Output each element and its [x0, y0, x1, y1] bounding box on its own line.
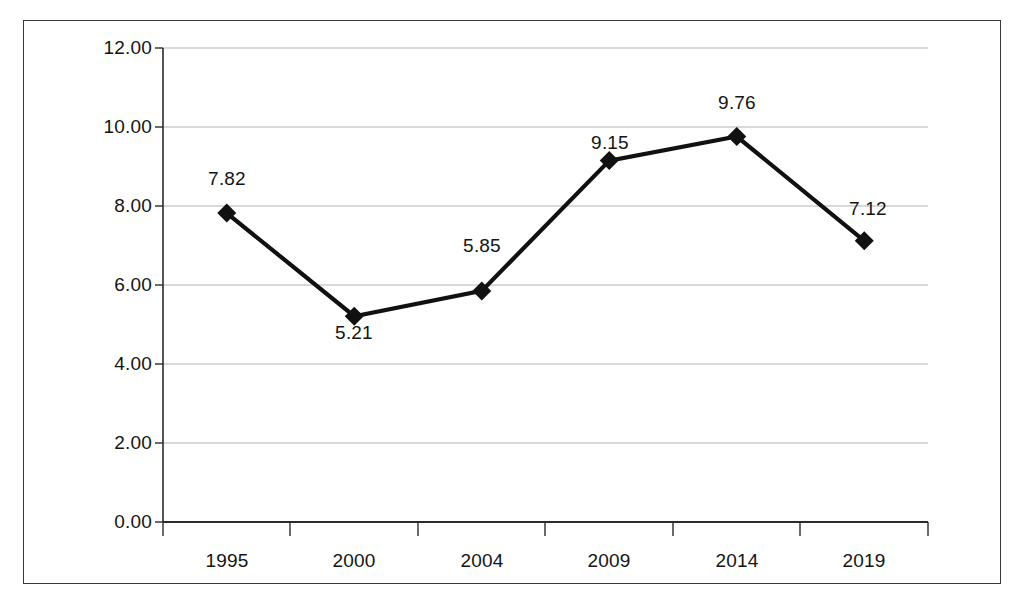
line-chart-plot — [0, 0, 1016, 606]
data-label-2004: 5.85 — [442, 235, 522, 257]
y-tick-label-0: 0.00 — [62, 511, 152, 533]
x-tick-label-2014: 2014 — [677, 550, 797, 572]
x-tick-label-2004: 2004 — [422, 550, 542, 572]
data-line-series-1 — [227, 137, 865, 317]
data-label-2019: 7.12 — [828, 198, 908, 220]
data-label-1995: 7.82 — [187, 168, 267, 190]
data-label-2014: 9.76 — [697, 92, 777, 114]
x-tick-label-2009: 2009 — [549, 550, 669, 572]
data-label-2009: 9.15 — [570, 132, 650, 154]
data-label-2000: 5.21 — [314, 322, 394, 344]
x-tick-label-2019: 2019 — [804, 550, 924, 572]
y-tick-label-8: 8.00 — [62, 195, 152, 217]
x-tick-label-2000: 2000 — [294, 550, 414, 572]
x-tick-label-1995: 1995 — [167, 550, 287, 572]
y-tick-label-2: 2.00 — [62, 432, 152, 454]
y-tick-label-6: 6.00 — [62, 274, 152, 296]
gridlines — [163, 48, 928, 443]
x-axis — [163, 522, 928, 536]
y-tick-label-12: 12.00 — [62, 37, 152, 59]
y-tick-label-10: 10.00 — [62, 116, 152, 138]
y-tick-label-4: 4.00 — [62, 353, 152, 375]
chart-figure: 12.00 10.00 8.00 6.00 4.00 2.00 0.00 199… — [0, 0, 1016, 606]
y-axis — [155, 48, 163, 522]
